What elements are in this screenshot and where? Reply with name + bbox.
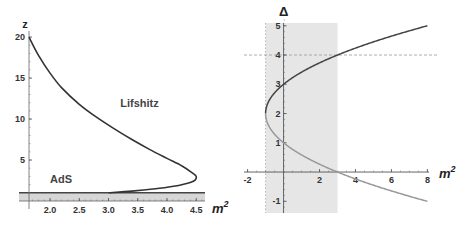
x-tick-label: 2.0 [44,205,57,215]
x-tick-label: 4.5 [190,205,203,215]
x-tick-label: 3.0 [102,205,115,215]
y-tick-label: 10 [15,114,25,124]
left-chart: 2.02.53.03.54.04.5 5101520 z m2 Lifshitz… [15,18,229,216]
annotation-lifshitz: Lifshitz [120,97,159,109]
annotation-ads: AdS [50,173,72,185]
ads-shaded-band [19,193,205,201]
y-tick-label: 5 [276,21,281,31]
x-tick-label: 2.5 [73,205,86,215]
x-axis-label: m2 [439,164,456,181]
y-tick-label: 2 [276,109,281,119]
lifshitz-curve [29,37,196,193]
y-axis-label: z [22,18,28,30]
y-tick-label: 5 [20,155,25,165]
x-tick-label: -2 [244,175,252,185]
x-tick-label: 3.5 [131,205,144,215]
x-tick-label: 4.0 [161,205,174,215]
x-axis-label: m2 [212,199,229,216]
x-tick-label: 8 [425,175,430,185]
y-axis-label: Δ [279,4,288,19]
y-tick-label: 20 [15,32,25,42]
y-tick-label: 4 [276,50,281,60]
x-tick-label: 2 [317,175,322,185]
x-tick-label: 6 [389,175,394,185]
y-tick-label: 15 [15,73,25,83]
y-tick-label: -1 [273,196,281,206]
right-chart: -22468 -112345 Δ m2 [244,4,456,213]
y-ticks: 5101520 [15,32,32,193]
figure: 2.02.53.03.54.04.5 5101520 z m2 Lifshitz… [0,0,460,226]
